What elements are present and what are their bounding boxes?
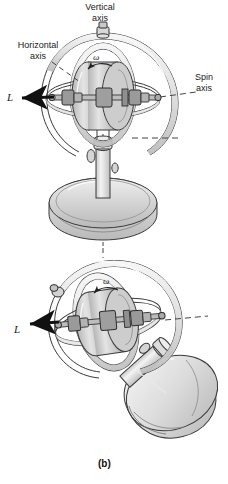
spin-axle <box>49 88 161 107</box>
angular-momentum-arrow-bottom <box>30 322 59 324</box>
label-angular-momentum-bottom: L <box>14 324 20 335</box>
label-horizontal-axis: Horizontal axis <box>2 40 74 61</box>
label-spin-axis: Spin axis <box>181 72 227 93</box>
spin-axis-line-tilted <box>165 316 208 320</box>
label-angular-momentum-top: L <box>7 92 13 103</box>
angular-momentum-arrow-top <box>22 97 54 98</box>
label-omega-bottom: ω <box>103 276 109 287</box>
tilted-gyroscope <box>30 248 228 448</box>
spin-axle-tilted <box>54 306 166 335</box>
label-omega-top: ω <box>93 52 99 63</box>
figure-caption: (b) <box>98 458 111 469</box>
label-vertical-axis: Vertical axis <box>68 2 132 23</box>
